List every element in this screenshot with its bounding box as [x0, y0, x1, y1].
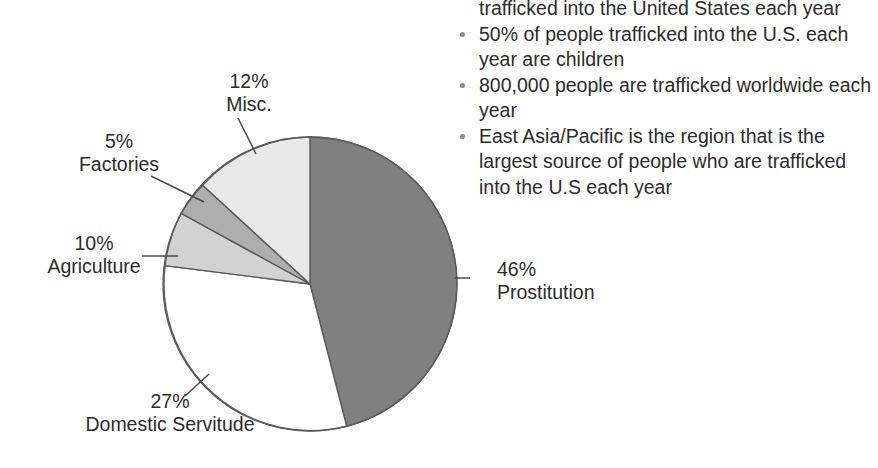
pie-label-factories-percent: 5% — [45, 130, 193, 153]
bullet-icon — [460, 32, 465, 37]
pie-label-domestic-servitude: 27% Domestic Servitude — [48, 390, 292, 436]
leader-line-factories — [151, 176, 204, 202]
bullet-icon — [460, 134, 465, 139]
pie-label-misc-name: Misc. — [190, 93, 308, 116]
pie-label-agriculture-percent: 10% — [18, 232, 170, 255]
slide-canvas: 12% Misc. 5% Factories 10% Agriculture 2… — [0, 0, 878, 468]
pie-label-prostitution: 46% Prostitution — [497, 258, 657, 304]
fact-text: East Asia/Pacific is the region that is … — [479, 125, 846, 198]
pie-label-domestic-servitude-name: Domestic Servitude — [48, 413, 292, 436]
pie-label-factories: 5% Factories — [45, 130, 193, 176]
facts-list: 50% of people trafficked into the U.S. e… — [452, 22, 878, 201]
fact-list-item: 800,000 people are trafficked worldwide … — [452, 73, 878, 124]
bullet-icon — [460, 83, 465, 88]
fact-text: 800,000 people are trafficked worldwide … — [479, 74, 871, 122]
fact-continued-line: trafficked into the United States each y… — [452, 0, 878, 22]
fact-list-item: 50% of people trafficked into the U.S. e… — [452, 22, 878, 73]
pie-label-prostitution-percent: 46% — [497, 258, 657, 281]
pie-label-agriculture-name: Agriculture — [18, 255, 170, 278]
fact-list-item: East Asia/Pacific is the region that is … — [452, 124, 878, 201]
pie-label-agriculture: 10% Agriculture — [18, 232, 170, 278]
fact-text: 50% of people trafficked into the U.S. e… — [479, 23, 848, 71]
pie-label-prostitution-name: Prostitution — [497, 281, 657, 304]
pie-chart-figure: 12% Misc. 5% Factories 10% Agriculture 2… — [0, 0, 470, 468]
leader-line-misc — [238, 118, 256, 154]
facts-panel: trafficked into the United States each y… — [452, 0, 878, 200]
pie-label-factories-name: Factories — [45, 153, 193, 176]
pie-label-misc: 12% Misc. — [190, 70, 308, 116]
pie-label-misc-percent: 12% — [190, 70, 308, 93]
pie-label-domestic-servitude-percent: 27% — [48, 390, 292, 413]
